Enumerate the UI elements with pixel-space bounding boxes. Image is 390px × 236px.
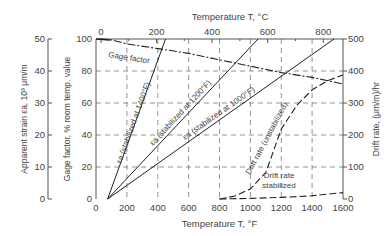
svg-text:40: 40: [34, 65, 45, 76]
inner-left-tick-labels: 100 80 60 40 20 0: [76, 33, 92, 204]
strain-1400-annotation: εa (stabilized at 1400°F): [114, 81, 152, 165]
x-top-axis-label: Temperature T, °C: [192, 11, 269, 22]
svg-text:600: 600: [260, 26, 276, 37]
drift-stabilized-annotation-1: Drift rate: [264, 171, 295, 180]
svg-text:20: 20: [34, 129, 45, 140]
svg-text:200: 200: [348, 129, 364, 140]
chart: 0 200 400 600 800 1000 1200 1400 1600 Te…: [0, 0, 390, 236]
svg-text:0: 0: [87, 193, 92, 204]
right-tick-labels: 500 400 300 200 100 0: [348, 33, 364, 204]
svg-text:300: 300: [348, 97, 364, 108]
svg-text:0: 0: [40, 193, 45, 204]
svg-text:30: 30: [34, 97, 45, 108]
drift-stabilized-annotation-2: stabilized: [262, 181, 295, 190]
svg-text:50: 50: [34, 33, 45, 44]
top-axis-ticks: [101, 39, 323, 43]
svg-text:1400: 1400: [302, 202, 323, 213]
svg-text:400: 400: [348, 65, 364, 76]
svg-text:800: 800: [315, 26, 331, 37]
y-inner-axis-label: Gage factor, % room temp. value: [62, 57, 72, 182]
x-axis-label: Temperature T, °F: [182, 218, 258, 229]
svg-text:600: 600: [181, 202, 197, 213]
svg-text:80: 80: [81, 65, 92, 76]
svg-text:400: 400: [204, 26, 220, 37]
svg-text:200: 200: [149, 26, 165, 37]
svg-text:800: 800: [212, 202, 228, 213]
outer-left-axis: [48, 39, 52, 199]
svg-text:0: 0: [93, 202, 98, 213]
svg-text:10: 10: [34, 161, 45, 172]
svg-text:20: 20: [81, 161, 92, 172]
svg-text:60: 60: [81, 97, 92, 108]
svg-text:40: 40: [81, 129, 92, 140]
y-outer-axis-label: Apparent strain εa, 10³ μm/m: [19, 64, 29, 173]
svg-text:1000: 1000: [240, 202, 261, 213]
bottom-tick-labels: 0 200 400 600 800 1000 1200 1400 1600: [93, 202, 353, 213]
svg-text:500: 500: [348, 33, 364, 44]
y-right-axis-label: Drift rate, (μm/m)/hr: [371, 82, 381, 156]
svg-text:100: 100: [348, 161, 364, 172]
right-axis-ticks: [343, 39, 347, 199]
svg-text:100: 100: [76, 33, 92, 44]
svg-text:400: 400: [150, 202, 166, 213]
svg-text:0: 0: [98, 26, 103, 37]
svg-text:0: 0: [348, 193, 353, 204]
top-tick-labels: 0 200 400 600 800: [98, 26, 331, 37]
svg-text:200: 200: [119, 202, 135, 213]
outer-left-tick-labels: 50 40 30 20 10 0: [34, 33, 45, 204]
gage-factor-annotation: Gage factor: [108, 50, 151, 65]
svg-text:1200: 1200: [271, 202, 292, 213]
